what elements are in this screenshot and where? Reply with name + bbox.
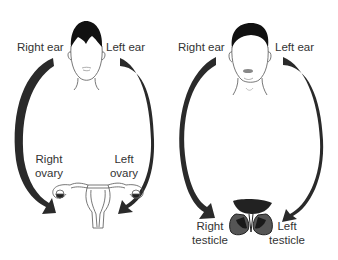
- label-female-left-ear: Left ear: [106, 40, 145, 54]
- testicles-icon: [230, 199, 273, 235]
- label-right-ovary: Right ovary: [34, 152, 64, 180]
- label-male-right-ear: Right ear: [178, 40, 225, 54]
- label-female-right-ear: Right ear: [17, 40, 64, 54]
- label-left-testicle-line1: Left: [268, 219, 306, 233]
- label-right-ovary-line2: ovary: [34, 166, 64, 180]
- arrow-left-ear-to-left-testicle: [282, 57, 323, 222]
- label-right-testicle: Right testicle: [191, 219, 229, 247]
- label-left-ovary-line1: Left: [109, 152, 139, 166]
- diagram-canvas: Right ear Left ear Right ovary Left ovar…: [0, 0, 338, 260]
- label-right-testicle-line2: testicle: [191, 233, 229, 247]
- label-right-testicle-line1: Right: [191, 219, 229, 233]
- label-male-left-ear: Left ear: [275, 40, 314, 54]
- label-left-ovary: Left ovary: [109, 152, 139, 180]
- label-left-testicle-line2: testicle: [268, 233, 306, 247]
- male-head-icon: [229, 23, 271, 95]
- label-left-testicle: Left testicle: [268, 219, 306, 247]
- label-left-ovary-line2: ovary: [109, 166, 139, 180]
- label-right-ovary-line1: Right: [34, 152, 64, 166]
- female-head-icon: [68, 21, 105, 90]
- arrow-right-ear-to-right-testicle: [179, 57, 216, 219]
- arrow-right-ear-to-right-ovary: [15, 58, 56, 214]
